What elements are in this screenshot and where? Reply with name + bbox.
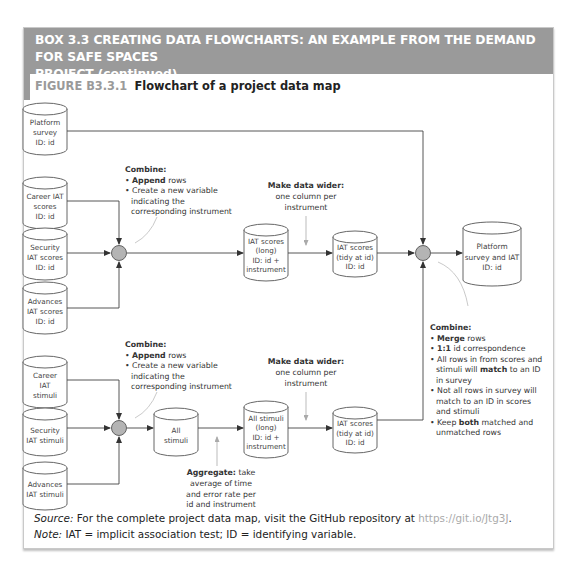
combine-node-top [112,246,127,261]
cylinder-label: ID: id [36,317,55,326]
note-label: Note: [34,528,62,540]
note-text: IAT = implicit association test; ID = id… [62,528,356,540]
cylinder-label: Career IAT [26,192,64,201]
cylinder-label: (long) [255,246,276,255]
merge-bullet: • Merge rows [430,334,486,343]
source-label: Source: [34,512,73,524]
cylinder-label: Career [33,371,57,380]
cylinder-platform-survey: PlatformsurveyID: id [23,103,67,155]
cylinder-label: IAT scores [248,237,284,246]
merge-node [416,246,431,261]
connector [67,201,119,244]
combine-bottom-bullet: • Append rows [125,351,186,360]
cylinder-label: (long) [255,423,276,432]
wider-top-line: one column per [275,192,337,201]
cylinder-label: Platform [30,118,60,127]
cylinder-career-iat-scores: Career IATscoresID: id [23,177,67,229]
merge-bullet: in survey [436,376,472,385]
cylinder-all-stimuli: Allstimuli [154,408,198,456]
cylinder-label: ID: id [36,263,55,272]
connector [67,131,423,244]
cylinder-label: IAT stimuli [26,490,63,499]
combine-bottom-bullet: • Create a new variable [125,361,218,370]
cylinder-label: stimuli [33,391,57,400]
cylinder-label: survey and IAT [465,253,520,262]
cylinder-label: Platform [476,242,507,251]
combine-top-title: Combine: [125,165,166,174]
wider-bottom-title: Make data wider: [268,357,344,366]
aggregate-line: and error rate per [186,490,257,499]
cylinder-label: All [172,426,181,435]
cylinder-label: IAT scores [27,307,63,316]
cylinder-label: All stimuli [248,414,283,423]
merge-bullet: and stimuli [436,407,479,416]
aggregate-line: id and instrument [186,500,256,509]
flowchart: PlatformsurveyID: idCareer IATscoresID: … [0,0,575,565]
merge-bullet: • Keep both matched and [430,418,533,427]
cylinder-label: ID: id [36,212,55,221]
cylinder-label: scores [33,202,56,211]
cylinder-label: Advances [28,480,63,489]
combine-bottom-bullet: corresponding instrument [131,382,232,391]
merge-bullet: stimuli will match to an ID [436,365,541,374]
cylinder-label: IAT scores [337,243,373,252]
wider-bottom-line: one column per [275,368,337,377]
cylinder-label: stimuli [164,436,188,445]
cylinder-security-iat-scores: SecurityIAT scoresID: id [23,228,67,280]
cylinder-label: survey [33,128,58,137]
cylinder-label: Security [30,426,60,435]
combine-top-bullet: corresponding instrument [131,207,232,216]
cylinder-label: ID: id [36,138,55,147]
source-link[interactable]: https://git.io/Jtg3J [418,512,508,524]
combine-top-bullet: • Append rows [125,176,186,185]
cylinder-all-stimuli-long: All stimuli(long)ID: id +instrument [244,401,288,458]
cylinder-platform-survey-and-iat: Platformsurvey and IATID: id [463,222,521,286]
cylinder-label: (tidy at id) [336,253,374,262]
aggregate-line: average of time [190,479,252,488]
wider-top-line: instrument [285,203,328,212]
connector [67,437,119,484]
combine-top-bullet: • Create a new variable [125,186,218,195]
merge-bullet: unmatched rows [436,428,501,437]
combine-bottom-title: Combine: [125,340,166,349]
merge-bullet: match to an ID in scores [436,397,531,406]
aggregate-title: Aggregate: take [187,468,256,477]
cylinder-label: Advances [28,297,63,306]
cylinder-iat-scores-tidy-top: IAT scores(tidy at id)ID: id [333,231,377,277]
cylinder-advances-iat-stimuli: AdvancesIAT stimuli [23,462,67,510]
wider-top-title: Make data wider: [268,181,344,190]
merge-bullet: • Not all rows in survey will [430,386,537,395]
wider-bottom-line: instrument [285,379,328,388]
cylinder-label: ID: id [482,263,502,272]
cylinder-label: instrument [246,265,286,274]
source-line: Source: For the complete project data ma… [34,512,512,524]
cylinder-label: IAT scores [27,253,63,262]
combine-top-bullet: indicating the [131,197,185,206]
cylinder-label: IAT stimuli [26,436,63,445]
cylinder-label: IAT [40,381,51,390]
callout-curve [135,217,157,243]
cylinder-label: (tidy at id) [336,429,374,438]
cylinder-label: ID: id + [252,256,279,265]
cylinder-label: IAT scores [337,419,373,428]
cylinder-label: ID: id [346,262,365,271]
cylinder-iat-scores-tidy-bottom: IAT scores(tidy at id)ID: id [333,407,377,453]
cylinder-advances-iat-scores: AdvancesIAT scoresID: id [23,282,67,334]
merge-title: Combine: [430,323,471,332]
cylinder-label: ID: id [346,438,365,447]
merge-bullet: • 1:1 id correspondence [430,344,526,353]
connector [67,380,119,419]
source-text: For the complete project data map, visit… [73,512,418,524]
merge-bullet: • All rows in from scores and [430,355,542,364]
cylinder-label: instrument [246,442,286,451]
cylinder-label: ID: id + [252,433,279,442]
connector [67,262,119,308]
cylinder-career-iat-stimuli: CareerIATstimuli [23,356,67,408]
note-line: Note: IAT = implicit association test; I… [34,528,356,540]
combine-bottom-bullet: indicating the [131,372,185,381]
cylinder-label: Security [30,243,60,252]
cylinder-iat-scores-long: IAT scores(long)ID: id +instrument [244,224,288,281]
combine-node-bottom [112,421,127,436]
cylinder-security-iat-stimuli: SecurityIAT stimuli [23,408,67,456]
